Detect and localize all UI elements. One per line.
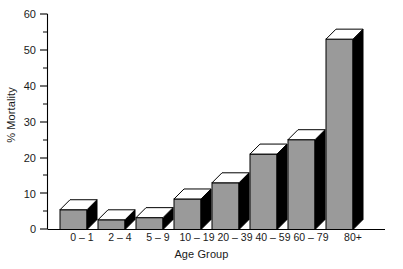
bar-side-5 — [277, 144, 287, 229]
bar-front-7 — [326, 39, 353, 229]
page-caption — [0, 259, 403, 269]
y-axis — [40, 14, 48, 229]
bar-front-4 — [212, 183, 239, 230]
bar-front-2 — [136, 218, 163, 230]
bars-group — [60, 29, 363, 229]
chart-figure: % Mortality Age Group 60 50 40 30 20 10 … — [0, 0, 403, 269]
bar-side-6 — [315, 130, 325, 230]
plot-area — [0, 0, 403, 269]
bar-front-5 — [250, 154, 277, 229]
bar-front-3 — [174, 199, 201, 230]
bar-front-1 — [98, 220, 125, 230]
bar-front-0 — [60, 210, 87, 230]
bar-side-7 — [353, 29, 363, 229]
bar-front-6 — [288, 140, 315, 230]
